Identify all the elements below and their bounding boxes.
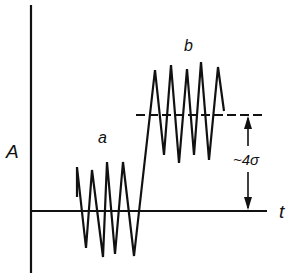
step-height-label: ~4σ bbox=[233, 151, 260, 168]
arrowhead-down-icon bbox=[244, 197, 252, 210]
signal-b-label: b bbox=[184, 37, 193, 54]
y-axis-label: A bbox=[5, 141, 19, 162]
arrowhead-up-icon bbox=[244, 116, 252, 129]
signal-step-diagram: A t a b ~4σ bbox=[0, 0, 291, 277]
signal-a-waveform bbox=[77, 70, 155, 257]
signal-a-label: a bbox=[98, 129, 107, 146]
signal-b-waveform bbox=[155, 62, 224, 163]
x-axis-label: t bbox=[279, 201, 285, 222]
